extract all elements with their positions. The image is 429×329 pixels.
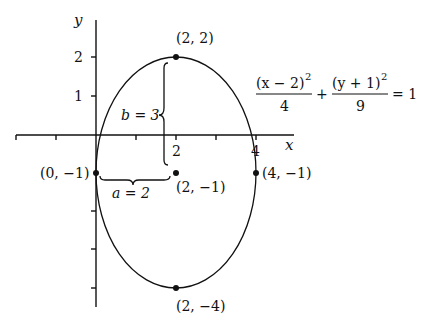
a-label: a = 2	[112, 185, 150, 201]
b-label: b = 3	[121, 107, 160, 123]
x-axis-label: x	[285, 136, 294, 154]
label-point-center: (2, −1)	[176, 179, 225, 195]
label-point-left: (0, −1)	[40, 165, 89, 181]
point-top	[173, 54, 179, 60]
frac1-numerator: (x − 2)	[256, 75, 304, 91]
label-point-top: (2, 2)	[176, 30, 214, 46]
frac2-denominator: 9	[356, 98, 365, 114]
y-axis-label: y	[73, 11, 83, 29]
x-tick-label-4: 4	[251, 143, 260, 159]
x-tick-label-2: 2	[172, 143, 181, 159]
frac1-exponent: 2	[305, 71, 311, 82]
point-bottom	[173, 285, 179, 291]
a-brace	[100, 176, 170, 185]
ellipse-equation: (x − 2) 2 4 + (y + 1) 2 9 = 1	[256, 71, 417, 114]
label-point-right: (4, −1)	[262, 165, 311, 181]
point-center	[173, 170, 179, 176]
equals-one: = 1	[392, 86, 417, 102]
point-left	[93, 170, 99, 176]
frac2-exponent: 2	[381, 71, 387, 82]
plus-sign: +	[316, 86, 328, 102]
ellipse-diagram: y x 2 1 2 4 (2, 2) (0, −1) (2, −1) (4, −…	[0, 0, 429, 329]
y-tick-label-2: 2	[74, 49, 83, 65]
b-brace	[159, 63, 168, 165]
point-right	[253, 170, 259, 176]
frac2-numerator: (y + 1)	[332, 75, 380, 91]
y-tick-label-1: 1	[74, 88, 83, 104]
frac1-denominator: 4	[280, 98, 289, 114]
label-point-bottom: (2, −4)	[176, 298, 225, 314]
